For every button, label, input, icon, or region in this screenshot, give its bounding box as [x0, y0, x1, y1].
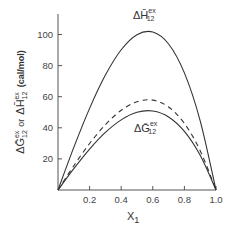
- x-axis-label: X1: [127, 210, 139, 225]
- g-curve-label: ΔḠex12: [134, 120, 158, 135]
- chart-svg: 0.20.40.60.81.0 20406080100 ΔḠ12exorΔH̄1…: [0, 0, 227, 232]
- x-tick-label: 0.8: [178, 194, 191, 205]
- y-tick-label: 80: [42, 60, 53, 71]
- y-tick-label: 20: [42, 153, 53, 164]
- h-excess-curve: [58, 31, 216, 190]
- svg-text:ΔḠ12exorΔH̄12ex(cal/mol): ΔḠ12exorΔH̄12ex(cal/mol): [13, 50, 28, 154]
- x-tick-label: 1.0: [209, 194, 222, 205]
- y-label-units: (cal/mol): [16, 50, 26, 87]
- y-axis-label: ΔḠ12exorΔH̄12ex(cal/mol): [13, 50, 28, 154]
- dashed-curve: [58, 100, 216, 190]
- excess-property-chart: 0.20.40.60.81.0 20406080100 ΔḠ12exorΔH̄1…: [0, 0, 227, 232]
- x-tick-label: 0.4: [115, 194, 128, 205]
- x-tick-label: 0.6: [146, 194, 159, 205]
- y-tick-label: 60: [42, 91, 53, 102]
- y-label-g: ΔḠ: [14, 138, 26, 154]
- h-curve-label: ΔH̄ex12: [133, 7, 156, 22]
- y-label-h: ΔH̄: [14, 99, 26, 114]
- y-tick-label: 40: [42, 122, 53, 133]
- curves: [58, 31, 216, 190]
- x-tick-label: 0.2: [83, 194, 96, 205]
- x-ticks: 0.20.40.60.81.0: [83, 186, 223, 205]
- y-tick-label: 100: [37, 29, 53, 40]
